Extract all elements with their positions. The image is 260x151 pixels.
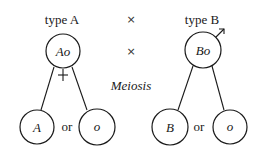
parent-a-type-label: type A [45,12,80,27]
gamete-o-left-allele: o [94,119,101,134]
female-symbol-icon [58,69,68,81]
gamete-a-allele: A [32,120,41,135]
or-label-left: or [62,119,74,134]
parent-b-genotype: Bo [196,43,211,58]
branch-line-a-right [72,67,87,110]
branch-line-a-left [41,67,54,110]
parent-b-type-label: type B [185,12,220,27]
blood-type-cross-diagram: type A type B × × Ao Bo Meiosis A or o B… [0,0,260,151]
cross-symbol-middle: × [126,45,135,58]
or-label-right: or [194,119,206,134]
branch-line-b-left [178,66,193,110]
cross-symbol-top: × [126,13,135,26]
parent-a-genotype: Ao [55,44,71,59]
branch-line-b-right [212,66,224,110]
gamete-o-right-allele: o [227,119,234,134]
meiosis-label: Meiosis [110,78,151,93]
gamete-b-allele: B [166,120,174,135]
male-symbol-icon [216,29,224,37]
